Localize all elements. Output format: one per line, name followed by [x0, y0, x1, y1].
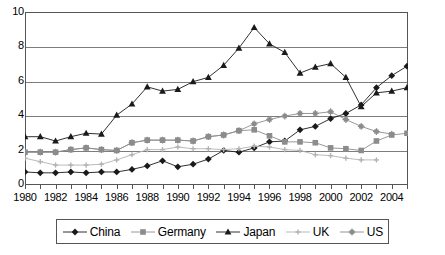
series-line — [25, 112, 392, 152]
marker-diamond — [129, 166, 136, 173]
marker-diamond — [205, 156, 212, 163]
marker-square — [282, 139, 288, 145]
marker-square — [267, 133, 273, 139]
marker-diamond — [327, 115, 334, 122]
legend-item-us[interactable]: US — [338, 226, 384, 238]
y-tick-label-2: 2 — [4, 144, 24, 155]
series-china — [25, 63, 408, 176]
marker-cross — [25, 156, 28, 161]
marker-diamond — [342, 110, 349, 117]
marker-cross — [145, 147, 150, 152]
marker-triangle — [205, 74, 212, 80]
marker-asterisk — [297, 110, 304, 117]
legend-label: UK — [313, 226, 329, 238]
marker-diamond — [25, 169, 28, 176]
marker-cross — [343, 156, 348, 161]
marker-cross — [297, 148, 302, 153]
legend-key-square-icon — [130, 226, 156, 238]
legend-label: Japan — [243, 226, 275, 238]
marker-diamond — [190, 161, 197, 168]
marker-triangle — [327, 60, 334, 66]
x-tick-1982 — [56, 185, 57, 189]
legend-label: US — [367, 226, 383, 238]
legend-item-japan[interactable]: Japan — [214, 226, 276, 238]
y-tick-label-8: 8 — [4, 40, 24, 51]
series-uk — [25, 144, 379, 168]
x-tick-1991 — [193, 185, 194, 189]
legend-key-diamond-icon — [62, 226, 88, 238]
marker-diamond — [266, 138, 273, 145]
marker-triangle — [281, 49, 288, 55]
marker-asterisk — [348, 228, 355, 235]
marker-cross — [53, 162, 58, 167]
x-tick-1983 — [71, 185, 72, 189]
marker-square — [140, 229, 146, 235]
marker-diamond — [174, 163, 181, 170]
marker-cross — [206, 146, 211, 151]
x-tick-1993 — [224, 185, 225, 189]
marker-triangle — [144, 83, 151, 89]
legend-item-germany[interactable]: Germany — [129, 226, 207, 238]
x-tick-1999 — [315, 185, 316, 189]
x-tick-1994 — [239, 185, 240, 189]
x-tick-1985 — [101, 185, 102, 189]
marker-cross — [267, 144, 272, 149]
y-tick-label-6: 6 — [4, 75, 24, 86]
x-tick-2001 — [346, 185, 347, 189]
x-tick-1996 — [269, 185, 270, 189]
series-japan — [25, 24, 408, 144]
marker-square — [404, 130, 408, 136]
marker-square — [374, 138, 380, 144]
marker-triangle — [25, 133, 28, 139]
marker-cross — [99, 162, 104, 167]
marker-diamond — [83, 169, 90, 176]
marker-cross — [114, 157, 119, 162]
marker-asterisk — [312, 110, 319, 117]
x-tick-2004 — [392, 185, 393, 189]
x-tick-2005 — [407, 185, 408, 189]
legend-item-china[interactable]: China — [61, 226, 121, 238]
x-tick-1981 — [40, 185, 41, 189]
marker-diamond — [113, 169, 120, 176]
marker-triangle — [83, 130, 90, 136]
marker-triangle — [225, 228, 232, 234]
marker-triangle — [37, 133, 44, 139]
marker-asterisk — [281, 113, 288, 120]
chart-root: 1086420 19801982198419861988199019921994… — [0, 0, 445, 255]
x-tick-2003 — [376, 185, 377, 189]
marker-diamond — [404, 63, 408, 70]
legend-key-asterisk-icon — [339, 226, 365, 238]
legend-item-uk[interactable]: UK — [284, 226, 330, 238]
series-layer — [25, 12, 408, 185]
legend-key-triangle-icon — [215, 226, 241, 238]
marker-cross — [282, 147, 287, 152]
series-germany — [25, 127, 408, 155]
marker-cross — [190, 146, 195, 151]
marker-square — [297, 139, 303, 145]
marker-cross — [160, 147, 165, 152]
x-tick-1987 — [132, 185, 133, 189]
x-tick-1986 — [117, 185, 118, 189]
marker-asterisk — [373, 128, 380, 135]
x-tick-label-2004: 2004 — [372, 191, 412, 203]
x-tick-1989 — [163, 185, 164, 189]
marker-cross — [68, 162, 73, 167]
x-tick-1988 — [147, 185, 148, 189]
legend-label: China — [90, 226, 120, 238]
marker-diamond — [159, 157, 166, 164]
series-line — [25, 66, 407, 173]
marker-asterisk — [327, 108, 334, 115]
x-tick-1990 — [178, 185, 179, 189]
marker-square — [313, 140, 319, 146]
marker-asterisk — [266, 116, 273, 123]
marker-diamond — [297, 126, 304, 133]
marker-diamond — [312, 123, 319, 130]
marker-square — [251, 127, 257, 133]
marker-asterisk — [358, 123, 365, 130]
marker-cross — [129, 152, 134, 157]
marker-diamond — [98, 169, 105, 176]
x-tick-2002 — [361, 185, 362, 189]
marker-diamond — [37, 169, 44, 176]
marker-cross — [374, 157, 379, 162]
x-tick-1992 — [208, 185, 209, 189]
